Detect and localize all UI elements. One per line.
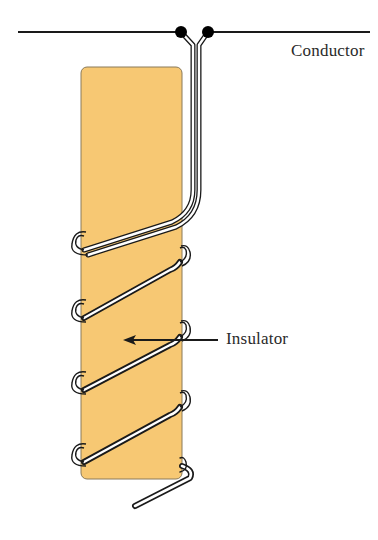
diagram-svg [0,0,378,540]
insulator-label: Insulator [226,329,288,349]
terminal-left-dot [175,26,187,38]
terminal-right-dot [202,26,214,38]
diagram-canvas: Conductor Insulator [0,0,378,540]
conductor-label: Conductor [291,41,365,61]
